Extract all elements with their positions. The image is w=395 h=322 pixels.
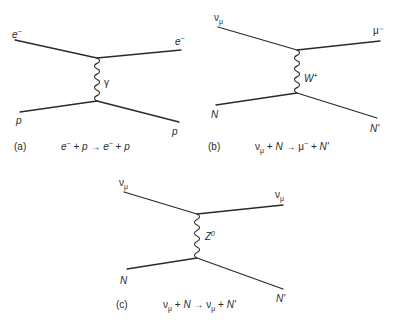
label-proton-out: p bbox=[172, 127, 178, 137]
caption-tag-c: (c) bbox=[116, 300, 128, 310]
equation-a: e− + p → e− + p bbox=[61, 142, 130, 152]
label-muon-neutrino-in: νμ bbox=[214, 13, 223, 23]
electron-outgoing-line bbox=[97, 50, 181, 58]
proton-incoming-line bbox=[20, 101, 97, 112]
nucleon-outgoing-line bbox=[297, 93, 377, 118]
nucleon-outgoing-line bbox=[197, 258, 283, 289]
z-boson-propagator bbox=[194, 214, 199, 258]
equation-b: νμ + N → μ− + N' bbox=[255, 142, 329, 152]
label-electron-in: e− bbox=[12, 30, 22, 40]
diagram-c bbox=[124, 192, 283, 289]
neutrino-incoming-line bbox=[124, 192, 197, 214]
label-muon-neutrino-in: νμ bbox=[119, 178, 128, 188]
caption-tag-a: (a) bbox=[14, 142, 26, 152]
equation-c: νμ + N → νμ + N' bbox=[163, 300, 236, 310]
diagram-b bbox=[216, 27, 380, 118]
caption-tag-b: (b) bbox=[208, 142, 220, 152]
w-boson-propagator bbox=[294, 50, 299, 93]
label-nucleon-out: N' bbox=[276, 294, 285, 304]
nucleon-incoming-line bbox=[216, 93, 297, 105]
muon-outgoing-line bbox=[297, 41, 380, 50]
label-muon-neutrino-out: νμ bbox=[275, 190, 284, 200]
diagram-canvas bbox=[0, 0, 395, 322]
photon-propagator bbox=[94, 58, 99, 101]
nucleon-incoming-line bbox=[127, 258, 197, 269]
label-nucleon-out: N' bbox=[370, 124, 379, 134]
electron-incoming-line bbox=[15, 40, 97, 58]
diagram-a bbox=[15, 40, 181, 122]
label-muon-out: μ⁻ bbox=[373, 26, 384, 36]
label-electron-out: e− bbox=[175, 37, 185, 47]
neutrino-outgoing-line bbox=[197, 205, 283, 214]
proton-outgoing-line bbox=[97, 101, 179, 122]
label-z-boson: Z0 bbox=[205, 232, 215, 242]
feynman-diagrams-figure: e− e− γ p p (a) e− + p → e− + p νμ μ⁻ W+… bbox=[0, 0, 395, 322]
neutrino-incoming-line bbox=[218, 27, 297, 50]
label-w-boson: W+ bbox=[304, 74, 318, 84]
label-photon: γ bbox=[104, 78, 109, 88]
label-proton-in: p bbox=[16, 116, 22, 126]
label-nucleon-in: N bbox=[211, 110, 218, 120]
label-nucleon-in: N bbox=[120, 276, 127, 286]
